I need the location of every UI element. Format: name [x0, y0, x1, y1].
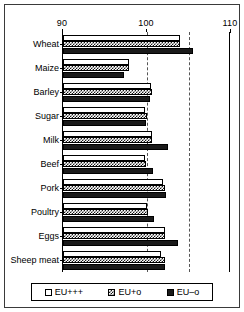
category-group: Poultry: [63, 200, 229, 224]
bar-eu-o-pork: [63, 185, 165, 191]
category-label: Milk: [43, 135, 59, 145]
category-label: Poultry: [31, 207, 59, 217]
category-group: Pork: [63, 176, 229, 200]
x-axis-tick-mark: [230, 29, 231, 33]
bar-eu-o-eggs: [63, 233, 165, 239]
bar-eu-pork: [63, 179, 163, 185]
bar-eu-o-sugar: [63, 113, 147, 119]
bar-eu-maize: [63, 59, 129, 65]
x-axis-tick-label: 100: [138, 18, 154, 29]
category-group: Beef: [63, 152, 229, 176]
category-group: Milk: [63, 128, 229, 152]
category-label: Maize: [35, 63, 59, 73]
bar-eu-sugar: [63, 107, 145, 113]
legend-item: EU+++: [45, 287, 83, 297]
category-group: Barley: [63, 80, 229, 104]
category-group: Sugar: [63, 104, 229, 128]
chart-legend: EU+++EU+oEU–o: [31, 283, 213, 301]
bar-eu-o-poultry: [63, 216, 154, 222]
bar-eu-o-barley: [63, 89, 152, 95]
legend-label: EU+o: [118, 287, 141, 297]
white-square-icon: [45, 289, 52, 296]
category-label: Sheep meat: [10, 255, 59, 265]
category-label: Beef: [40, 159, 59, 169]
bar-eu-beef: [63, 155, 145, 161]
bar-eu-o-milk: [63, 137, 152, 143]
x-axis-tick-labels: 90100110: [0, 18, 244, 30]
bar-eu-o-barley: [63, 96, 150, 102]
category-label: Eggs: [38, 231, 59, 241]
x-axis-tick-label: 90: [57, 18, 67, 29]
bar-eu-o-sugar: [63, 120, 146, 126]
category-label: Wheat: [33, 39, 59, 49]
bar-eu-o-beef: [63, 161, 146, 167]
bar-eu-o-wheat: [63, 41, 180, 47]
legend-item: EU–o: [167, 287, 200, 297]
legend-item: EU+o: [108, 287, 141, 297]
category-label: Sugar: [35, 111, 59, 121]
legend-label: EU+++: [55, 287, 83, 297]
black-square-icon: [167, 289, 174, 296]
legend-label: EU–o: [177, 287, 200, 297]
x-axis-tick-label: 110: [223, 18, 238, 29]
category-label: Pork: [40, 183, 59, 193]
category-group: Maize: [63, 56, 229, 80]
bar-eu-eggs: [63, 227, 165, 233]
bar-eu-o-maize: [63, 65, 129, 71]
bar-eu-o-pork: [63, 192, 166, 198]
bar-eu-milk: [63, 131, 152, 137]
bar-eu-o-milk: [63, 144, 168, 150]
bar-eu-o-wheat: [63, 48, 193, 54]
category-group: Wheat: [63, 32, 229, 56]
bar-eu-poultry: [63, 203, 147, 209]
bar-eu-o-sheep-meat: [63, 257, 165, 263]
plot-area: WheatMaizeBarleySugarMilkBeefPorkPoultry…: [62, 32, 230, 272]
hatched-square-icon: [108, 289, 115, 296]
bar-eu-wheat: [63, 35, 180, 41]
bar-eu-o-sheep-meat: [63, 264, 165, 270]
bar-eu-barley: [63, 83, 151, 89]
bar-eu-o-poultry: [63, 209, 148, 215]
category-label: Barley: [33, 87, 59, 97]
bar-eu-sheep-meat: [63, 251, 161, 257]
category-group: Sheep meat: [63, 248, 229, 272]
bar-eu-o-maize: [63, 72, 124, 78]
bar-chart-figure: 90100110 WheatMaizeBarleySugarMilkBeefPo…: [0, 0, 244, 312]
bar-eu-o-eggs: [63, 240, 178, 246]
category-group: Eggs: [63, 224, 229, 248]
bar-eu-o-beef: [63, 168, 153, 174]
